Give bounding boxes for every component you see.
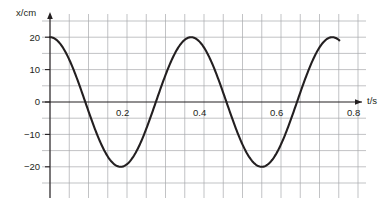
figure-container: x/cm t/s 20 10 0 −10 −20 0.2 0.4 0.6 0.8 (0, 0, 389, 209)
x-axis-arrow (355, 99, 362, 105)
x-axis-title: t/s (367, 96, 377, 106)
x-axis (42, 99, 362, 105)
y-tick-label-minus-10: −10 (2, 130, 40, 140)
x-tick-label-0-8: 0.8 (347, 108, 360, 118)
y-tick-label-20: 20 (8, 33, 40, 43)
y-tick-label-minus-20: −20 (2, 162, 40, 172)
y-axis-title: x/cm (16, 8, 36, 18)
displacement-time-graph (0, 0, 389, 209)
y-tick-label-0: 0 (8, 97, 40, 107)
y-axis (47, 12, 53, 198)
y-tick-label-10: 10 (8, 65, 40, 75)
x-tick-label-0-2: 0.2 (116, 108, 129, 118)
grid-vertical (50, 14, 358, 198)
x-tick-label-0-6: 0.6 (270, 108, 283, 118)
y-axis-title-unit: /cm (21, 7, 36, 18)
x-tick-label-0-4: 0.4 (193, 108, 206, 118)
x-axis-title-unit: /s (370, 95, 377, 106)
y-axis-ticks (45, 37, 50, 167)
y-axis-arrow (47, 12, 53, 19)
